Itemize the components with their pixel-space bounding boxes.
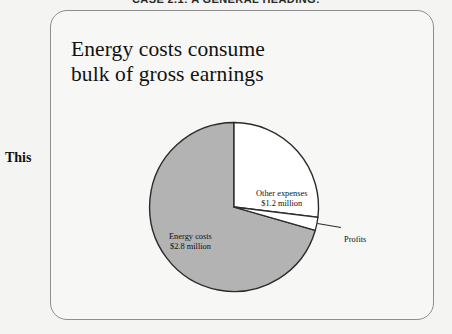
exhibit-card: Energy costs consume bulk of gross earni… <box>50 10 434 320</box>
running-header: CASE 2.1: A GENERAL HEADING: <box>0 0 452 5</box>
chart-title-line-2: bulk of gross earnings <box>71 62 421 87</box>
pie-label-other-expenses-name: Other expenses <box>256 189 307 198</box>
pie-label-other-expenses-value: $1.2 million <box>256 199 307 209</box>
pie-label-profits-name: Profits <box>344 235 366 244</box>
margin-body-text: This <box>5 150 31 166</box>
pie-label-other-expenses: Other expenses $1.2 million <box>256 189 307 209</box>
pie-label-energy-costs-value: $2.8 million <box>169 242 212 252</box>
chart-title: Energy costs consume bulk of gross earni… <box>71 37 421 87</box>
pie-label-energy-costs: Energy costs $2.8 million <box>169 232 212 252</box>
pie-slice-profits <box>234 207 318 230</box>
pie-label-profits: Profits <box>344 235 366 245</box>
pie-label-energy-costs-name: Energy costs <box>169 232 212 241</box>
profits-leader-line <box>318 224 342 228</box>
chart-title-line-1: Energy costs consume <box>71 37 421 62</box>
